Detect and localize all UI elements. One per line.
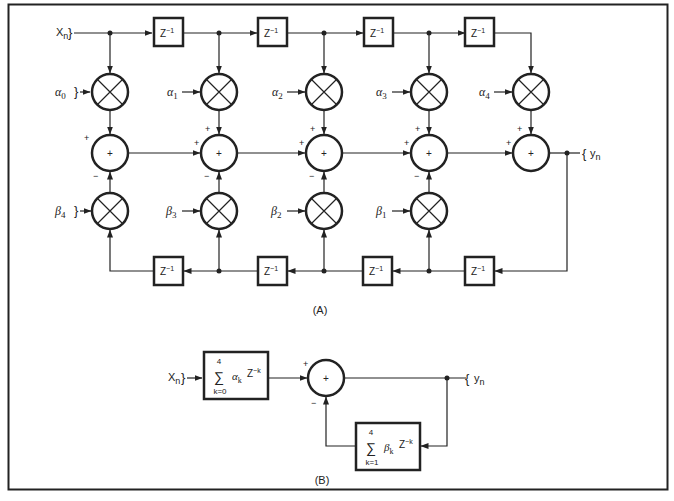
svg-text:α4: α4 bbox=[479, 85, 490, 101]
svg-text:+: + bbox=[84, 133, 89, 143]
svg-text:+: + bbox=[415, 124, 420, 134]
svg-text:+: + bbox=[299, 138, 304, 148]
delay-block: Z−1 bbox=[258, 257, 287, 285]
panel-b-label: (B) bbox=[315, 474, 330, 486]
iir-filter-diagram: Z−1 Z−1 Z−1 Z−1 Z−1 Z−1 Z−1 Z−1 + bbox=[0, 0, 674, 501]
svg-text:α0: α0 bbox=[55, 85, 66, 101]
svg-text:+: + bbox=[323, 373, 329, 384]
svg-text:β1: β1 bbox=[375, 204, 386, 220]
svg-text:4: 4 bbox=[217, 357, 222, 366]
multiplier-icon bbox=[92, 74, 128, 110]
delay-block: Z−1 bbox=[465, 257, 494, 285]
svg-text:+: + bbox=[205, 124, 210, 134]
input-label: Xn bbox=[168, 371, 180, 386]
brace-icon: } bbox=[181, 370, 186, 385]
svg-text:k=1: k=1 bbox=[365, 458, 379, 467]
svg-text:β2: β2 bbox=[270, 204, 281, 220]
multiplier-icon bbox=[201, 74, 237, 110]
svg-text:4: 4 bbox=[369, 428, 374, 437]
svg-text:α3: α3 bbox=[376, 85, 387, 101]
delay-block: Z−1 bbox=[465, 18, 494, 46]
output-label: yn bbox=[474, 372, 485, 387]
svg-text:β3: β3 bbox=[165, 204, 177, 220]
multiplier-icon bbox=[306, 193, 342, 229]
svg-text:−: − bbox=[414, 171, 419, 181]
delay-block: Z−1 bbox=[258, 18, 287, 46]
svg-text:+: + bbox=[194, 138, 199, 148]
svg-text:+: + bbox=[107, 148, 113, 159]
brace-icon: { bbox=[582, 146, 587, 161]
brace-icon: { bbox=[465, 371, 470, 386]
svg-text:α1: α1 bbox=[167, 85, 178, 101]
brace-icon: } bbox=[74, 84, 79, 99]
delay-block: Z−1 bbox=[364, 18, 393, 46]
multiplier-icon bbox=[92, 193, 128, 229]
svg-text:+: + bbox=[517, 124, 522, 134]
svg-text:+: + bbox=[216, 148, 222, 159]
svg-text:k=0: k=0 bbox=[213, 387, 227, 396]
delay-block: Z−1 bbox=[363, 257, 392, 285]
multiplier-icon bbox=[411, 74, 447, 110]
delay-block: Z−1 bbox=[154, 257, 183, 285]
svg-text:∑: ∑ bbox=[214, 369, 224, 385]
multiplier-icon bbox=[306, 74, 342, 110]
panel-a-label: (A) bbox=[313, 304, 328, 316]
svg-text:+: + bbox=[303, 359, 308, 369]
svg-text:+: + bbox=[426, 148, 432, 159]
multiplier-icon bbox=[201, 193, 237, 229]
svg-text:+: + bbox=[528, 148, 534, 159]
svg-text:α2: α2 bbox=[272, 85, 283, 101]
svg-text:β4: β4 bbox=[54, 204, 66, 220]
multiplier-icon bbox=[411, 193, 447, 229]
svg-text:−: − bbox=[93, 171, 98, 181]
svg-text:+: + bbox=[321, 148, 327, 159]
svg-text:+: + bbox=[404, 138, 409, 148]
svg-text:+: + bbox=[506, 138, 511, 148]
delay-block: Z−1 bbox=[154, 18, 183, 46]
output-label: yn bbox=[590, 147, 601, 162]
junction-dot bbox=[445, 376, 450, 381]
multiplier-icon bbox=[513, 74, 549, 110]
svg-text:−: − bbox=[204, 171, 209, 181]
svg-text:−: − bbox=[311, 398, 316, 408]
svg-text:−: − bbox=[309, 171, 314, 181]
input-label: Xn bbox=[56, 26, 68, 41]
svg-text:∑: ∑ bbox=[366, 440, 376, 456]
brace-icon: } bbox=[74, 203, 79, 218]
brace-icon: } bbox=[68, 25, 73, 40]
svg-text:+: + bbox=[310, 124, 315, 134]
